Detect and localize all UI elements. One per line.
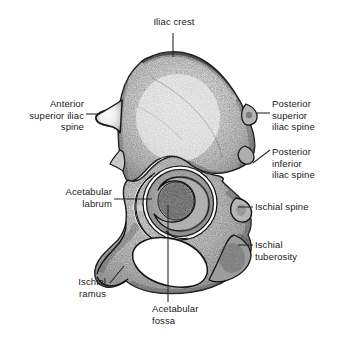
label-ischial-spine: Ischial spine [255, 201, 335, 213]
label-posterior-inferior-iliac-spine: Posterior inferior iliac spine [272, 146, 338, 181]
anterior-superior-iliac-spine [96, 100, 122, 133]
label-posterior-superior-iliac-spine: Posterior superior iliac spine [272, 98, 338, 133]
bone-body [90, 45, 265, 300]
anterior-inferior-iliac-spine [110, 150, 125, 171]
label-ischial-ramus: Ischial ramus [52, 276, 106, 299]
label-iliac-crest: Iliac crest [132, 16, 216, 28]
anatomical-figure: Iliac crest Anterior superior iliac spin… [0, 0, 340, 337]
posterior-superior-iliac-spine [242, 104, 257, 125]
label-acetabular-labrum: Acetabular labrum [36, 186, 112, 209]
label-acetabular-fossa: Acetabular fossa [152, 303, 232, 326]
ischial-spine [231, 198, 252, 222]
label-anterior-superior-iliac-spine: Anterior superior iliac spine [8, 98, 84, 133]
leader-posterior-inferior-iliac-spine [253, 150, 270, 163]
label-ischial-tuberosity: Ischial tuberosity [255, 239, 335, 262]
